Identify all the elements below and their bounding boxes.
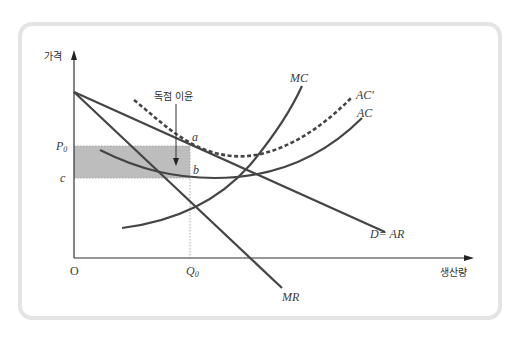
x-axis-arrow-icon [464, 255, 474, 261]
y-axis-label: 가격 [44, 52, 62, 62]
q0-main: Q [186, 264, 195, 278]
q0-subscript: 0 [195, 270, 199, 279]
monopoly-profit-label: 독점 이윤 [154, 92, 193, 102]
mr-label: MR [282, 291, 299, 303]
x-axis-label: 생산량 [440, 268, 467, 278]
point-b-label: b [193, 164, 199, 176]
point-a-label: a [192, 131, 198, 143]
p0-subscript: 0 [63, 145, 67, 154]
ac-label: AC [357, 107, 372, 119]
ac-prime-label: AC′ [356, 89, 374, 101]
monopoly-profit-area [74, 146, 190, 178]
p0-label: P0 [56, 140, 67, 154]
monopoly-profit-diagram [0, 0, 518, 338]
mc-label: MC [290, 72, 308, 84]
y-axis-arrow-icon [71, 50, 77, 60]
demand-label: D= AR [370, 228, 404, 240]
q0-label: Q0 [186, 265, 199, 279]
origin-label: O [70, 265, 79, 277]
c-label: c [60, 172, 65, 184]
